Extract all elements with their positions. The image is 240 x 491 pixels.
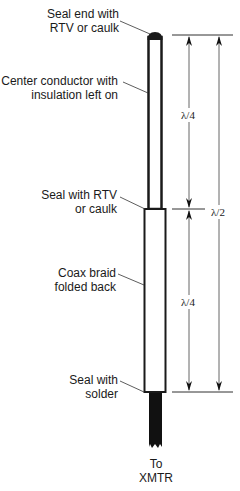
coax-braid-section (145, 209, 166, 392)
label-seal-rtv: Seal with RTV or caulk (41, 188, 117, 216)
label-seal-end: Seal end with RTV or caulk (47, 7, 119, 35)
label-to-xmtr: To XMTR (138, 457, 174, 485)
seal-cap (148, 32, 163, 40)
label-center-conductor: Center conductor with insulation left on (1, 74, 118, 102)
center-conductor (148, 32, 163, 209)
label-seal-solder: Seal with solder (69, 373, 118, 401)
coax-cable (149, 393, 162, 448)
dimension-upper-quarter-wave: λ/4 (181, 108, 195, 122)
dimension-half-wave: λ/2 (211, 205, 225, 219)
dimension-lower-quarter-wave: λ/4 (181, 295, 195, 309)
label-coax-braid: Coax braid folded back (55, 266, 116, 294)
